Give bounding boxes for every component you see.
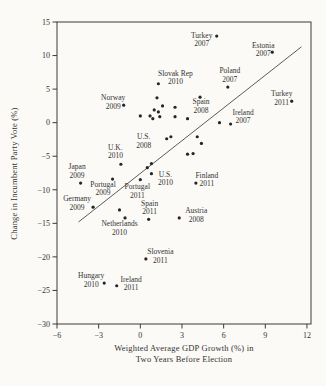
x-axis-title-line1: Weighted Average GDP Growth (%) in (57, 343, 311, 354)
point-label: Hungary2010 (78, 271, 104, 289)
point-label: U.S.2008 (136, 132, 151, 150)
point-label: Portugal2009 (90, 180, 115, 198)
data-point (158, 115, 161, 118)
data-point (165, 137, 168, 140)
data-point (218, 121, 221, 124)
point-label: Germany2009 (63, 194, 91, 212)
y-tick-label: 0 (46, 118, 50, 127)
data-point (215, 34, 218, 37)
data-point (115, 284, 118, 287)
data-point (122, 104, 125, 107)
data-point (161, 104, 164, 107)
data-point (200, 142, 203, 145)
point-label: Poland2007 (219, 66, 240, 84)
x-tick-label: −6 (53, 331, 62, 340)
y-tick-label: 10 (42, 51, 50, 60)
point-label: Slovenia2011 (147, 247, 174, 265)
y-tick-label: −25 (37, 286, 50, 295)
y-tick-label: −5 (41, 152, 50, 161)
data-point (157, 82, 160, 85)
data-point (118, 208, 121, 211)
data-point (169, 135, 172, 138)
data-point (194, 181, 197, 184)
x-axis-title: Weighted Average GDP Growth (%) in Two Y… (57, 343, 311, 365)
data-point (173, 106, 176, 109)
data-point (144, 257, 147, 260)
point-label: Spain2008 (192, 97, 209, 115)
point-label: U.S.2010 (158, 170, 173, 188)
data-point (151, 117, 154, 120)
y-tick-label: −30 (37, 320, 50, 329)
scatter-svg: 151050−5−10−15−20−25−30−6−3036912Turkey2… (0, 0, 326, 386)
y-tick-label: −20 (37, 253, 50, 262)
y-tick-label: −10 (37, 186, 50, 195)
point-label: Estonia2007 (252, 41, 275, 59)
point-label: Turkey2011 (271, 89, 293, 107)
y-tick-label: −15 (37, 219, 50, 228)
data-point (150, 172, 153, 175)
x-tick-label: 0 (138, 331, 142, 340)
point-label: Slovak Rep2010 (158, 69, 193, 87)
data-point (186, 117, 189, 120)
data-point (150, 162, 153, 165)
data-point (191, 152, 194, 155)
point-label: Portugal2011 (125, 182, 150, 200)
data-point (148, 114, 151, 117)
data-point (229, 122, 232, 125)
point-label: Ireland2007 (232, 108, 253, 126)
x-tick-label: 9 (263, 331, 267, 340)
data-point (157, 110, 160, 113)
x-tick-label: 6 (222, 331, 226, 340)
data-point (139, 114, 142, 117)
data-point (290, 100, 293, 103)
x-tick-label: −3 (94, 331, 103, 340)
point-label: Ireland2011 (121, 275, 142, 293)
point-label: Turkey2007 (191, 31, 213, 49)
data-point (119, 163, 122, 166)
y-tick-label: 5 (46, 85, 50, 94)
x-tick-label: 12 (303, 331, 311, 340)
data-point (147, 218, 150, 221)
data-point (173, 115, 176, 118)
data-point (103, 281, 106, 284)
data-point (155, 96, 158, 99)
data-point (153, 108, 156, 111)
point-label: U.K.2010 (108, 143, 123, 161)
y-tick-label: 15 (42, 18, 50, 27)
data-point (178, 216, 181, 219)
point-label: Spain2011 (141, 199, 158, 217)
data-point (79, 181, 82, 184)
point-label: Netherlands2010 (101, 219, 137, 237)
data-point (92, 206, 95, 209)
data-point (139, 178, 142, 181)
data-point (226, 85, 229, 88)
point-label: Japan2009 (69, 162, 86, 180)
point-label: Austria2008 (185, 206, 208, 224)
data-point (196, 135, 199, 138)
point-label: Finland2011 (195, 171, 218, 189)
x-tick-label: 3 (180, 331, 184, 340)
data-point (186, 153, 189, 156)
y-axis-title: Change in Incumbent Party Vote (%) (9, 23, 20, 325)
x-axis-title-line2: Two Years Before Election (57, 354, 311, 365)
data-point (146, 166, 149, 169)
figure-page: 151050−5−10−15−20−25−30−6−3036912Turkey2… (0, 0, 326, 386)
data-point (271, 51, 274, 54)
point-label: Norway2009 (101, 93, 125, 111)
